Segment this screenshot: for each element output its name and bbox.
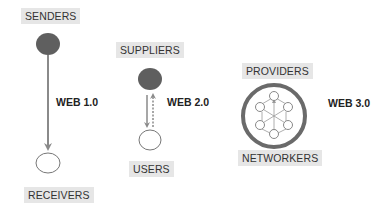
web2-diagram [138,68,162,150]
senders-label: SENDERS [21,8,80,24]
peer-node-lower-right [284,121,293,130]
receivers-label: RECEIVERS [24,187,94,203]
suppliers-node [138,68,162,90]
peer-node-upper-right [284,103,293,112]
peer-node-upper-left [256,103,265,112]
networkers-label: NETWORKERS [238,150,322,166]
peer-node-top [270,92,279,101]
web3-version-label: WEB 3.0 [328,97,370,109]
users-node [139,130,161,150]
providers-label: PROVIDERS [242,63,313,79]
peer-node-lower-left [256,121,265,130]
peer-node-bottom [270,130,279,139]
web1-version-label: WEB 1.0 [56,96,98,108]
receivers-node [36,153,60,173]
web3-diagram [243,85,305,147]
users-label: USERS [129,161,174,177]
web2-version-label: WEB 2.0 [167,96,209,108]
senders-node [36,33,60,55]
suppliers-label: SUPPLIERS [116,42,184,58]
